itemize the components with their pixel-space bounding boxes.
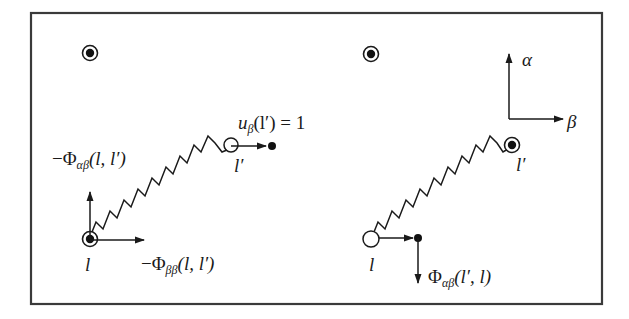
axis-alpha-label: α xyxy=(522,49,533,70)
label-atom-l: l xyxy=(85,254,90,275)
label-displacement: uβ(l′) = 1 xyxy=(238,112,305,136)
force-constant-diagram: uβ(l′) = 1 −Φαβ(l, l′) l′ l −Φββ(l, l′) … xyxy=(0,0,629,319)
atom-l-prime-open-icon xyxy=(224,138,238,152)
label-force-alpha-beta: −Φαβ(l, l′) xyxy=(52,148,126,172)
label-force-alpha-beta-reaction: Φαβ(l′, l) xyxy=(428,266,491,290)
label-atom-l-prime: l′ xyxy=(516,154,526,175)
axis-beta-label: β xyxy=(566,111,577,132)
atom-ring-icon xyxy=(364,47,379,62)
spring-icon xyxy=(374,136,508,232)
label-atom-l-prime: l′ xyxy=(234,155,244,176)
atom-l-open-icon xyxy=(363,231,379,247)
right-panel: α β l′ l Φαβ(l′, l) xyxy=(363,47,577,291)
atom-ring-icon xyxy=(83,46,98,61)
atom-l-prime-displaced-dot-icon xyxy=(268,142,276,150)
label-atom-l: l xyxy=(369,254,374,275)
left-panel: uβ(l′) = 1 −Φαβ(l, l′) l′ l −Φββ(l, l′) xyxy=(52,46,305,278)
atom-l-prime-ring-icon xyxy=(505,138,520,153)
label-force-beta-beta: −Φββ(l, l′) xyxy=(141,253,214,277)
